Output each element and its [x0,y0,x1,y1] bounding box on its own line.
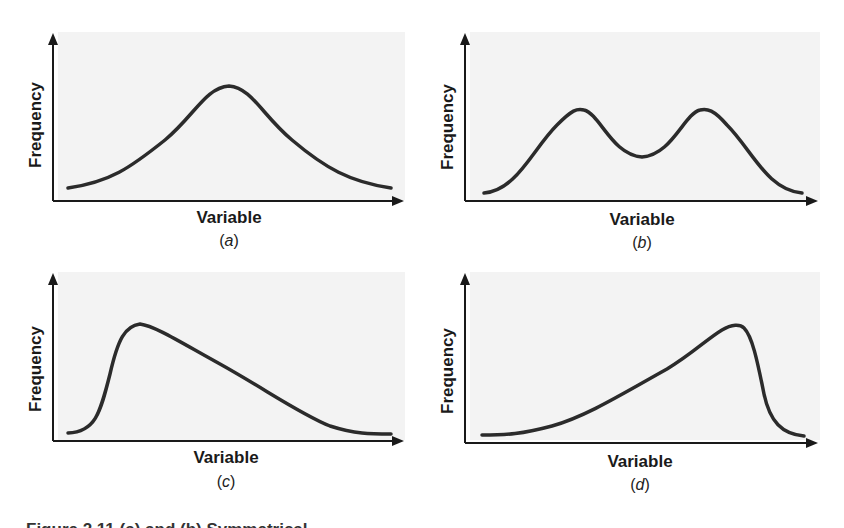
panel-label: (a) [219,232,239,250]
y-axis-label: Frequency [438,84,458,170]
y-axis-arrow-icon [460,273,470,285]
chart-d-plot [422,264,844,509]
chart-c-plot [0,264,422,509]
figure-caption: Figure 2.11 (a) and (b) Symmetrical ... [26,519,326,528]
panel-label: (b) [632,234,652,252]
x-axis-label: Variable [193,448,258,468]
y-axis-arrow-icon [48,33,58,45]
chart-panel-d: Frequency Variable (d) [422,264,844,509]
y-axis-arrow-icon [460,33,470,45]
y-axis-label: Frequency [26,326,46,412]
x-axis-label: Variable [609,210,674,230]
panel-label: (d) [630,476,650,494]
plot-background [470,272,820,440]
y-axis-arrow-icon [48,273,58,285]
y-axis-label: Frequency [26,82,46,168]
chart-panel-a: Frequency Variable (a) [0,0,422,245]
chart-b-plot [422,0,844,245]
chart-panel-c: Frequency Variable (c) [0,264,422,509]
x-axis-label: Variable [196,208,261,228]
x-axis-label: Variable [607,452,672,472]
y-axis-label: Frequency [438,328,458,414]
panel-label: (c) [217,473,236,491]
chart-panel-b: Frequency Variable (b) [422,0,844,245]
plot-background [58,272,405,440]
